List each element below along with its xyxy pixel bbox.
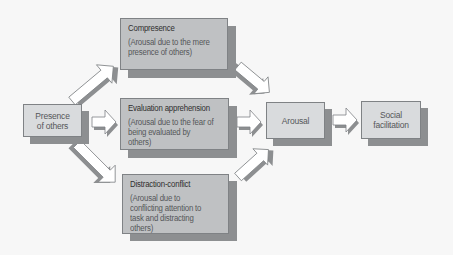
presence-line2: of others <box>35 121 69 131</box>
social-line1: Social <box>373 110 408 120</box>
evaluation-title: Evaluation apprehension <box>128 103 214 114</box>
node-face: Social facilitation <box>361 101 421 139</box>
distraction-title: Distraction-conflict <box>130 179 214 190</box>
arousal-label: Arousal <box>282 116 309 126</box>
node-face: Evaluation apprehension (Arousal due to … <box>120 98 229 150</box>
social-facilitation-label: Social facilitation <box>373 110 408 130</box>
compresence-description: (Arousal due to the mere presence of oth… <box>128 37 213 57</box>
node-compresence: Compresence (Arousal due to the mere pre… <box>120 18 236 78</box>
distraction-description: (Arousal due to conflicting attention to… <box>130 193 214 233</box>
social-line2: facilitation <box>373 120 408 130</box>
compresence-title: Compresence <box>128 23 213 34</box>
evaluation-description: (Arousal due to the fear of being evalua… <box>128 117 214 147</box>
node-evaluation-apprehension: Evaluation apprehension (Arousal due to … <box>120 98 237 158</box>
arrow-distraction-to-arousal <box>231 139 281 188</box>
social-facilitation-diagram: Presence of others Compresence (Arousal … <box>0 0 453 255</box>
arrow-presence-to-evaluation <box>92 110 118 137</box>
node-presence-of-others: Presence of others <box>23 104 89 144</box>
arrow-arousal-to-social-facilitation <box>333 108 359 135</box>
arrow-evaluation-to-arousal <box>237 110 263 137</box>
presence-line1: Presence <box>35 111 69 121</box>
node-face: Presence of others <box>23 104 82 137</box>
node-social-facilitation: Social facilitation <box>361 101 428 146</box>
node-face: Arousal <box>266 102 325 139</box>
node-face: Compresence (Arousal due to the mere pre… <box>120 18 228 70</box>
node-distraction-conflict: Distraction-conflict (Arousal due to con… <box>122 174 237 241</box>
presence-label: Presence of others <box>35 111 69 131</box>
node-arousal: Arousal <box>266 102 332 146</box>
node-face: Distraction-conflict (Arousal due to con… <box>122 174 229 234</box>
